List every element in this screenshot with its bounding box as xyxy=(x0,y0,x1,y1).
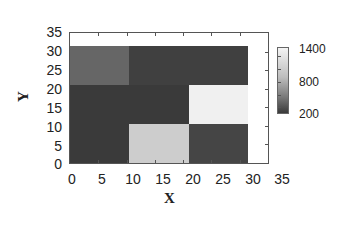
colorbar-label-min: 200 xyxy=(299,108,319,120)
colorbar-tick xyxy=(278,107,281,108)
colorbar-tick xyxy=(278,95,281,96)
colorbar-tick xyxy=(278,56,281,57)
y-tick-mark xyxy=(265,70,268,71)
y-tick-mark xyxy=(265,89,268,90)
x-tick-mark xyxy=(155,33,156,36)
plot-area xyxy=(69,32,269,164)
x-tick-label: 20 xyxy=(181,172,205,186)
colorbar-tick xyxy=(278,69,281,70)
x-axis-label: X xyxy=(164,190,175,207)
x-tick-mark xyxy=(183,160,184,163)
x-tick-mark xyxy=(98,33,99,36)
y-tick-label: 10 xyxy=(38,120,62,134)
x-tick-label: 35 xyxy=(270,172,294,186)
y-tick-label: 35 xyxy=(38,25,62,39)
x-tick-label: 30 xyxy=(241,172,265,186)
colorbar-label-mid: 800 xyxy=(299,76,319,88)
heatmap-cell xyxy=(70,85,129,124)
y-tick-mark xyxy=(265,126,268,127)
heatmap-cell xyxy=(129,124,188,163)
x-tick-mark xyxy=(127,160,128,163)
heatmap-cell xyxy=(129,85,188,124)
y-tick-label: 20 xyxy=(38,82,62,96)
y-tick-label: 25 xyxy=(38,63,62,77)
heatmap-cell xyxy=(70,46,129,85)
heatmap-cell xyxy=(189,46,248,85)
x-tick-label: 15 xyxy=(151,172,175,186)
y-tick-label: 5 xyxy=(38,139,62,153)
x-tick-mark xyxy=(155,160,156,163)
y-tick-label: 30 xyxy=(38,44,62,58)
x-tick-mark xyxy=(240,33,241,36)
x-tick-mark xyxy=(211,160,212,163)
y-tick-mark xyxy=(265,52,268,53)
y-tick-label: 15 xyxy=(38,101,62,115)
x-tick-label: 25 xyxy=(211,172,235,186)
x-tick-label: 0 xyxy=(60,172,84,186)
heatmap-cell xyxy=(70,124,129,163)
x-tick-mark xyxy=(98,160,99,163)
heatmap-cell xyxy=(189,124,248,163)
y-axis-label: Y xyxy=(15,91,32,102)
x-tick-mark xyxy=(240,160,241,163)
colorbar-label-max: 1400 xyxy=(299,43,326,55)
colorbar xyxy=(277,47,289,114)
x-tick-mark xyxy=(183,33,184,36)
colorbar-tick xyxy=(278,82,281,83)
x-tick-mark xyxy=(127,33,128,36)
heatmap-cell xyxy=(129,46,188,85)
x-tick-label: 5 xyxy=(90,172,114,186)
x-tick-label: 10 xyxy=(121,172,145,186)
heatmap-cell xyxy=(189,85,248,124)
y-tick-mark xyxy=(265,144,268,145)
x-tick-mark xyxy=(211,33,212,36)
y-tick-mark xyxy=(265,107,268,108)
y-tick-label: 0 xyxy=(38,157,62,171)
